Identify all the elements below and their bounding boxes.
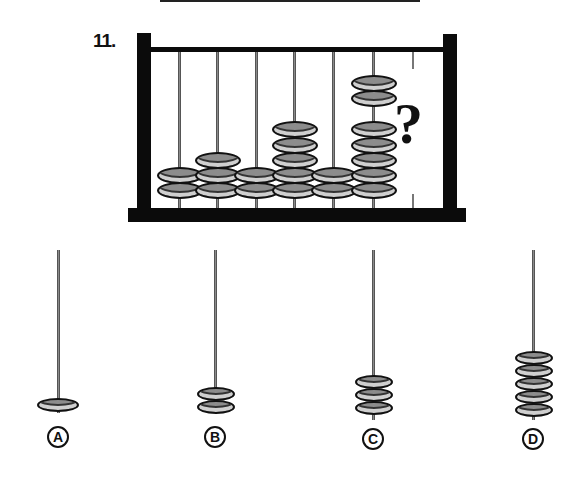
bead	[37, 398, 79, 412]
bead	[272, 137, 318, 154]
bead	[515, 364, 553, 378]
option-a-rod	[57, 250, 60, 413]
option-d-label[interactable]: D	[522, 428, 544, 450]
bead	[272, 121, 318, 138]
bead	[515, 377, 553, 391]
bead	[195, 152, 241, 169]
bead	[515, 351, 553, 365]
bead	[197, 400, 235, 414]
frame-top-bar	[151, 47, 443, 52]
option-a-label[interactable]: A	[47, 426, 69, 448]
bead	[351, 167, 397, 184]
abacus-rod-7-bottom-stub	[412, 194, 414, 208]
option-c-label[interactable]: C	[362, 428, 384, 450]
bead	[351, 152, 397, 169]
bead	[272, 152, 318, 169]
bead	[351, 121, 397, 138]
bead	[351, 137, 397, 154]
bead	[515, 390, 553, 404]
bead	[355, 375, 393, 389]
question-number: 11.	[93, 30, 115, 52]
frame-right-post	[443, 34, 457, 214]
frame-left-post	[137, 33, 151, 213]
bead	[515, 403, 553, 417]
question-mark: ?	[394, 95, 423, 153]
bead	[355, 388, 393, 402]
bead	[197, 387, 235, 401]
top-divider-line	[160, 0, 420, 2]
option-b-label[interactable]: B	[204, 426, 226, 448]
bead	[355, 401, 393, 415]
abacus-rod-7-top-stub	[412, 52, 414, 69]
frame-bottom-bar	[128, 208, 466, 222]
bead	[351, 75, 397, 92]
bead	[351, 182, 397, 199]
bead	[351, 90, 397, 107]
